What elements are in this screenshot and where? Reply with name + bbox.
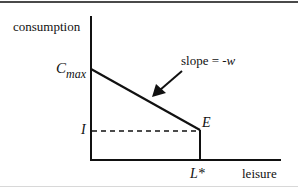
c-max-label: Cmax xyxy=(56,61,86,80)
x-axis-label: leisure xyxy=(242,167,277,180)
slope-arrow-shaft xyxy=(160,71,182,90)
c-max-subscript: max xyxy=(66,67,86,81)
budget-line xyxy=(91,69,200,130)
diagram-frame: consumption leisure Cmax I E L* slope = … xyxy=(0,0,298,190)
c-max-main: C xyxy=(56,60,66,76)
endowment-point-label: E xyxy=(202,116,211,130)
leisure-star-label: L* xyxy=(190,167,205,181)
slope-annotation: slope = -w xyxy=(181,54,235,67)
y-axis-label: consumption xyxy=(13,20,80,33)
income-label: I xyxy=(81,123,86,137)
slope-value: -w xyxy=(222,53,235,68)
slope-prefix: slope = xyxy=(181,53,222,68)
